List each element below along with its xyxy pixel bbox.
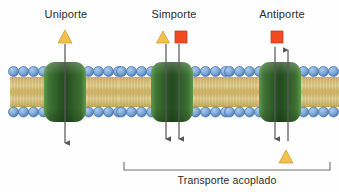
panel-uniporte: Uniporte xyxy=(10,0,122,192)
transport-diagram: Uniporte Simporte Antiporte Transporte a… xyxy=(0,0,339,192)
panel-title-uniporte: Uniporte xyxy=(10,8,122,20)
panel-simporte: Simporte xyxy=(118,0,230,192)
panel-title-antiporte: Antiporte xyxy=(226,8,338,20)
panel-title-simporte: Simporte xyxy=(118,8,230,20)
bracket-caption: Transporte acoplado xyxy=(124,174,330,186)
panel-antiporte: Antiporte xyxy=(226,0,338,192)
